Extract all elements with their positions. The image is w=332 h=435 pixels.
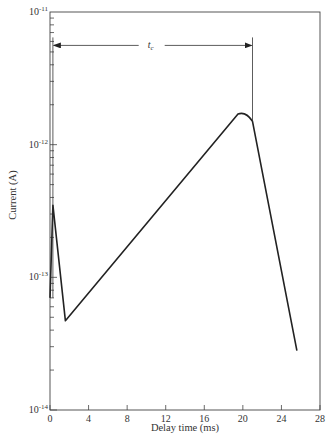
tc-label: tc — [148, 39, 155, 52]
x-tick-label: 0 — [48, 413, 53, 424]
plot-frame — [50, 12, 320, 410]
x-tick-label: 20 — [238, 413, 248, 424]
x-tick-label: 28 — [315, 413, 325, 424]
tc-annotation: tc — [53, 37, 253, 297]
x-axis-title: Delay time (ms) — [151, 422, 220, 434]
y-axis-title: Current (A) — [7, 170, 19, 220]
y-tick-label: 10-14 — [29, 403, 49, 415]
y-tick-label: 10-12 — [29, 138, 49, 150]
x-tick-label: 24 — [276, 413, 286, 424]
y-axis-tick-labels: 10-1410-1310-1210-11 — [29, 5, 49, 415]
y-tick-label: 10-11 — [29, 5, 49, 17]
chart: 10-1410-1310-1210-11 0481216202428 tc De… — [0, 0, 332, 435]
x-tick-label: 4 — [86, 413, 91, 424]
x-axis-ticks — [50, 405, 320, 410]
current-curve — [50, 113, 297, 350]
x-tick-label: 8 — [125, 413, 130, 424]
y-tick-label: 10-13 — [29, 270, 49, 282]
